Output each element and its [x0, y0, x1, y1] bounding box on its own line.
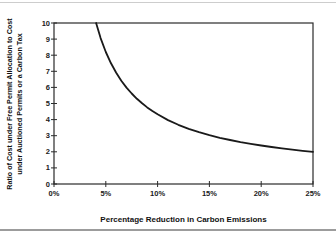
y-axis-tick-label: 7	[30, 67, 50, 76]
x-axis-tick-label: 10%	[144, 189, 172, 198]
y-axis-title-line1: Ratio of Cost under Free Permit Allocati…	[5, 9, 15, 199]
y-axis-tick-label: 10	[30, 19, 50, 28]
y-axis-tick-label: 0	[30, 180, 50, 189]
y-axis-tick-label: 9	[30, 35, 50, 44]
x-axis-tick-label: 15%	[195, 189, 223, 198]
y-axis-tick-label: 2	[30, 147, 50, 156]
plot-canvas	[0, 0, 336, 238]
plot-frame	[54, 23, 313, 184]
y-axis-tick-label: 4	[30, 115, 50, 124]
x-axis-tick-label: 20%	[247, 189, 275, 198]
y-axis-tick-label: 3	[30, 131, 50, 140]
cost-ratio-curve	[96, 23, 313, 152]
x-axis-title: Percentage Reduction in Carbon Emissions	[54, 215, 313, 224]
y-axis-title-line2: under Auctioned Permits or a Carbon Tax	[15, 9, 25, 199]
y-axis-tick-label: 1	[30, 163, 50, 172]
y-axis-tick-label: 6	[30, 83, 50, 92]
y-axis-tick-label: 5	[30, 99, 50, 108]
y-axis-tick-label: 8	[30, 51, 50, 60]
y-axis-title: Ratio of Cost under Free Permit Allocati…	[5, 9, 25, 199]
x-axis-tick-label: 5%	[92, 189, 120, 198]
x-axis-tick-label: 25%	[299, 189, 327, 198]
chart-figure: 0123456789100%5%10%15%20%25% Ratio of Co…	[0, 0, 336, 238]
x-axis-tick-label: 0%	[40, 189, 68, 198]
